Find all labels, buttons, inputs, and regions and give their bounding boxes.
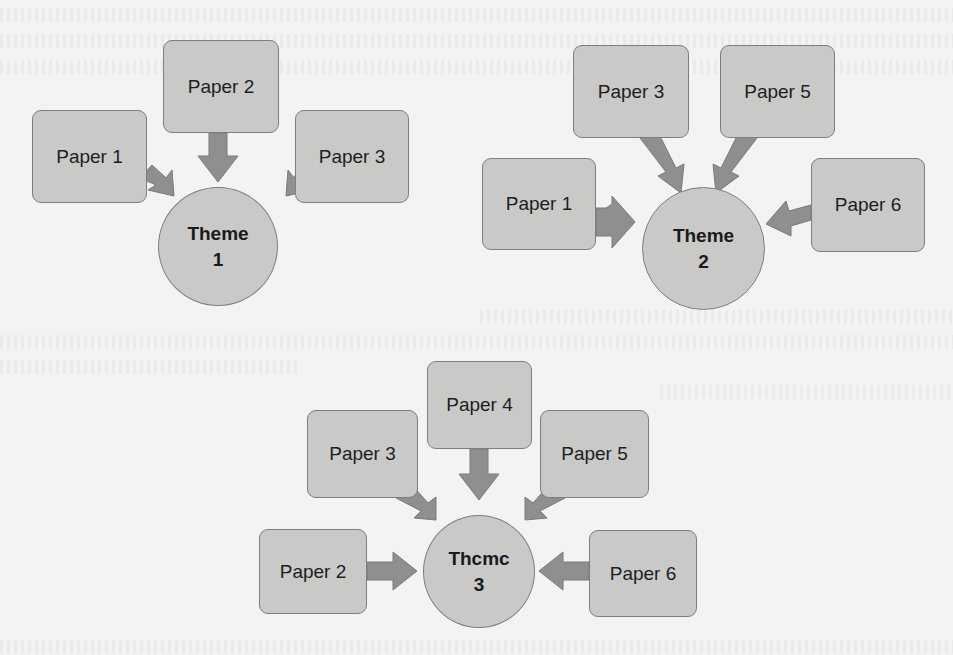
paper-label: Paper 5 (561, 443, 628, 465)
paper-box: Paper 1 (32, 110, 147, 203)
paper-box: Paper 1 (482, 158, 596, 250)
arrow-icon (459, 449, 499, 500)
arrow-icon (367, 552, 417, 590)
paper-box: Paper 2 (259, 529, 367, 614)
theme-circle: Thcmc 3 (423, 515, 535, 628)
paper-box: Paper 3 (573, 45, 689, 138)
theme-circle: Theme 1 (158, 187, 278, 306)
paper-label: Paper 3 (319, 146, 386, 168)
theme-circle: Theme 2 (642, 187, 765, 310)
paper-label: Paper 3 (329, 443, 396, 465)
theme-label-line2: 2 (698, 249, 709, 275)
arrow-icon (713, 130, 757, 193)
theme-label-line2: 1 (213, 247, 224, 273)
arrow-icon (640, 130, 684, 193)
theme-label-line1: Theme (673, 223, 734, 249)
arrow-icon (766, 201, 811, 236)
theme-label-line1: Theme (187, 221, 248, 247)
arrow-icon (596, 196, 635, 248)
paper-label: Paper 4 (446, 394, 513, 416)
paper-label: Paper 2 (280, 561, 347, 583)
paper-box: Paper 5 (540, 410, 649, 498)
paper-box: Paper 2 (163, 40, 279, 133)
paper-label: Paper 5 (744, 81, 811, 103)
theme-label-line1: Thcmc (448, 546, 509, 572)
paper-label: Paper 2 (188, 76, 255, 98)
paper-box: Paper 3 (295, 110, 409, 203)
paper-box: Paper 3 (307, 410, 418, 498)
paper-label: Paper 6 (835, 194, 902, 216)
paper-box: Paper 6 (589, 530, 697, 617)
arrow-icon (539, 552, 589, 590)
paper-label: Paper 1 (56, 146, 123, 168)
paper-box: Paper 4 (427, 361, 532, 449)
paper-box: Paper 5 (720, 45, 835, 138)
paper-label: Paper 1 (506, 193, 573, 215)
theme-label-line2: 3 (474, 572, 485, 598)
paper-label: Paper 3 (598, 81, 665, 103)
paper-label: Paper 6 (610, 563, 677, 585)
paper-box: Paper 6 (811, 158, 925, 252)
arrow-icon (198, 133, 238, 182)
